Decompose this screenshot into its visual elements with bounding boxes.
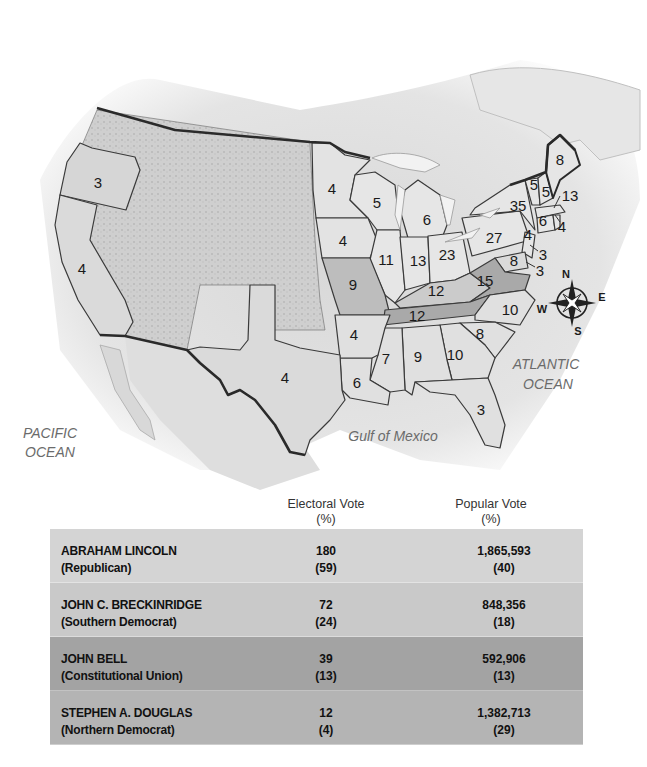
candidate-name: STEPHEN A. DOUGLAS: [61, 704, 192, 722]
electoral-vote: 12: [286, 704, 366, 722]
atlantic-label-2: OCEAN: [523, 376, 574, 392]
ev-virginia: 15: [477, 272, 494, 289]
electoral-vote: 180: [286, 542, 366, 560]
ev-pennsylvania: 27: [486, 229, 503, 246]
ev-louisiana: 6: [353, 374, 361, 391]
electoral-vote: 39: [286, 650, 366, 668]
ev-indiana: 13: [410, 252, 427, 269]
popular-vote-header-unit: (%): [421, 512, 561, 527]
ev-arkansas: 4: [350, 326, 358, 343]
ev-new-hampshire: 5: [542, 183, 550, 200]
candidate-name: JOHN BELL: [61, 650, 127, 668]
ev-illinois: 11: [378, 251, 394, 268]
popular-pct: (18): [454, 613, 554, 631]
ev-missouri: 9: [349, 276, 357, 293]
table-row: STEPHEN A. DOUGLAS (Northern Democrat) 1…: [50, 691, 583, 745]
compass-s: S: [574, 325, 581, 337]
ev-vermont: 5: [530, 176, 538, 193]
ev-iowa: 4: [339, 232, 347, 249]
electoral-vote: 72: [286, 596, 366, 614]
electoral-pct: (4): [286, 721, 366, 739]
ev-new-jersey: 4: [524, 226, 532, 243]
ev-wisconsin: 5: [373, 194, 381, 211]
ev-tennessee: 12: [409, 307, 426, 324]
ev-new-york: 35: [510, 197, 527, 214]
ev-massachusetts: 13: [562, 187, 579, 204]
ev-oregon: 3: [94, 174, 102, 191]
election-map: 3 4 4 5 4 6 11 13 23 27 35 5 5 8 13 6 4 …: [0, 0, 647, 500]
ev-maryland-callout: 3: [536, 262, 544, 279]
results-table: ABRAHAM LINCOLN (Republican) 180 (59) 1,…: [50, 529, 583, 745]
ev-south-carolina: 8: [476, 325, 484, 342]
compass-e: E: [598, 291, 605, 303]
pacific-label-2: OCEAN: [25, 444, 76, 460]
candidate-party: (Northern Democrat): [61, 721, 175, 739]
popular-vote: 848,356: [454, 596, 554, 614]
ev-alabama: 9: [414, 348, 422, 365]
ev-maryland: 8: [510, 252, 518, 269]
ev-maine: 8: [556, 151, 564, 168]
ev-north-carolina: 10: [502, 301, 519, 318]
popular-vote-header: Popular Vote (%): [421, 497, 561, 527]
ev-california: 4: [78, 260, 86, 277]
gulf-label: Gulf of Mexico: [348, 428, 438, 444]
ev-kentucky: 12: [428, 282, 445, 299]
candidate-party: (Republican): [61, 559, 131, 577]
electoral-vote-header-unit: (%): [256, 512, 396, 527]
atlantic-label-1: ATLANTIC: [512, 356, 581, 372]
electoral-pct: (13): [286, 667, 366, 685]
ev-texas: 4: [281, 369, 289, 386]
popular-vote: 1,382,713: [454, 704, 554, 722]
pacific-label-1: PACIFIC: [23, 425, 78, 441]
popular-vote-header-label: Popular Vote: [421, 497, 561, 512]
ev-georgia: 10: [447, 346, 464, 363]
ev-florida: 3: [477, 401, 485, 418]
table-row: ABRAHAM LINCOLN (Republican) 180 (59) 1,…: [50, 529, 583, 583]
electoral-vote-header-label: Electoral Vote: [256, 497, 396, 512]
candidate-party: (Constitutional Union): [61, 667, 183, 685]
popular-pct: (29): [454, 721, 554, 739]
candidate-name: JOHN C. BRECKINRIDGE: [61, 596, 202, 614]
electoral-pct: (59): [286, 559, 366, 577]
ev-connecticut: 6: [539, 212, 547, 229]
popular-vote: 1,865,593: [454, 542, 554, 560]
electoral-vote-header: Electoral Vote (%): [256, 497, 396, 527]
popular-pct: (13): [454, 667, 554, 685]
table-row: JOHN BELL (Constitutional Union) 39 (13)…: [50, 637, 583, 691]
candidate-name: ABRAHAM LINCOLN: [61, 542, 177, 560]
ev-ohio: 23: [439, 246, 456, 263]
compass-n: N: [562, 268, 570, 280]
popular-pct: (40): [454, 559, 554, 577]
ev-michigan: 6: [423, 211, 431, 228]
ev-minnesota: 4: [328, 180, 336, 197]
candidate-party: (Southern Democrat): [61, 613, 177, 631]
electoral-pct: (24): [286, 613, 366, 631]
compass-w: W: [537, 303, 548, 315]
ev-mississippi: 7: [382, 350, 390, 367]
table-row: JOHN C. BRECKINRIDGE (Southern Democrat)…: [50, 583, 583, 637]
popular-vote: 592,906: [454, 650, 554, 668]
ev-delaware: 3: [539, 246, 547, 263]
